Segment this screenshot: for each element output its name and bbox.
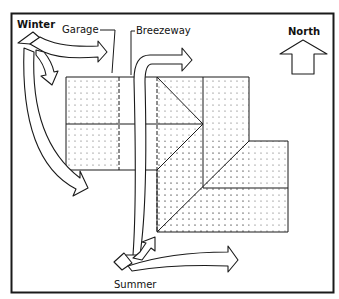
summer-label: Summer: [114, 279, 157, 290]
north-label: North: [288, 26, 320, 37]
breezeway-leader-line: [131, 31, 135, 75]
site-plan-diagram: Winter Garage Breezeway North Summer: [0, 0, 339, 299]
garage-label: Garage: [62, 24, 99, 35]
winter-label: Winter: [17, 19, 55, 30]
breezeway-label: Breezeway: [136, 25, 191, 36]
north-arrow-icon: [280, 40, 327, 74]
wing-area: [157, 141, 288, 232]
house-plan: [66, 77, 288, 232]
